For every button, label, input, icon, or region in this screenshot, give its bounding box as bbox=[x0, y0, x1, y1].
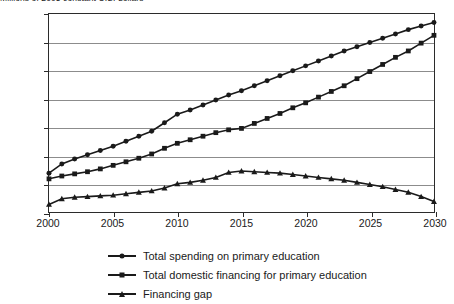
data-point bbox=[149, 152, 154, 157]
chart-legend: Total spending on primary educationTotal… bbox=[108, 246, 454, 303]
data-point bbox=[188, 107, 193, 112]
series-circle bbox=[47, 20, 437, 176]
data-point bbox=[149, 129, 154, 134]
data-point bbox=[316, 58, 321, 63]
data-point bbox=[431, 20, 436, 25]
data-point bbox=[111, 163, 116, 168]
data-point bbox=[329, 89, 334, 94]
data-point bbox=[393, 31, 398, 36]
legend-marker-circle-icon bbox=[108, 250, 136, 262]
data-point bbox=[72, 156, 77, 161]
legend-marker-square-icon bbox=[108, 269, 136, 281]
data-point bbox=[265, 78, 270, 83]
series-line bbox=[49, 171, 434, 204]
data-point bbox=[278, 111, 283, 116]
data-point bbox=[239, 88, 244, 93]
x-axis-tick-label: 2010 bbox=[165, 217, 188, 229]
data-point bbox=[290, 105, 295, 110]
data-point bbox=[367, 40, 372, 45]
data-point bbox=[355, 76, 360, 81]
data-point bbox=[175, 112, 180, 117]
data-point bbox=[85, 169, 90, 174]
data-point bbox=[59, 174, 64, 179]
data-point bbox=[162, 146, 167, 151]
data-lines bbox=[49, 14, 434, 213]
legend-label: Total spending on primary education bbox=[143, 250, 320, 262]
data-point bbox=[354, 44, 359, 49]
data-point bbox=[98, 148, 103, 153]
data-point bbox=[47, 171, 52, 176]
data-point bbox=[380, 62, 385, 67]
series-line bbox=[49, 23, 434, 174]
x-axis-tick-label: 2005 bbox=[101, 217, 124, 229]
data-point bbox=[265, 116, 270, 121]
data-point bbox=[201, 134, 206, 139]
series-square bbox=[47, 33, 437, 181]
data-point bbox=[316, 95, 321, 100]
data-point bbox=[213, 97, 218, 102]
data-point bbox=[419, 41, 424, 46]
data-point bbox=[252, 83, 257, 88]
data-point bbox=[175, 141, 180, 146]
data-point bbox=[432, 33, 437, 38]
x-axis-tick-label: 2020 bbox=[294, 217, 317, 229]
chart-figure: Millions of 2005 constant U.S. dollars 0… bbox=[0, 0, 454, 304]
data-point bbox=[85, 152, 90, 157]
axis-title: Millions of 2005 constant U.S. dollars bbox=[0, 0, 144, 3]
data-point bbox=[111, 144, 116, 149]
data-point bbox=[226, 127, 231, 132]
data-point bbox=[329, 53, 334, 58]
x-axis-tick-label: 2015 bbox=[230, 217, 253, 229]
series-line bbox=[49, 35, 434, 179]
data-point bbox=[252, 121, 257, 126]
series-triangle bbox=[46, 168, 437, 207]
data-point bbox=[162, 120, 167, 125]
legend-item[interactable]: Total domestic financing for primary edu… bbox=[108, 265, 454, 284]
x-axis-tick-label: 2000 bbox=[36, 217, 59, 229]
data-point bbox=[124, 139, 129, 144]
legend-label: Total domestic financing for primary edu… bbox=[143, 269, 367, 281]
data-point bbox=[136, 156, 141, 161]
data-point bbox=[393, 55, 398, 60]
data-point bbox=[188, 137, 193, 142]
legend-label: Financing gap bbox=[143, 288, 212, 300]
data-point bbox=[290, 68, 295, 73]
data-point bbox=[201, 102, 206, 107]
data-point bbox=[303, 63, 308, 68]
plot-area bbox=[48, 13, 435, 213]
data-point bbox=[59, 161, 64, 166]
data-point bbox=[406, 49, 411, 54]
data-point bbox=[303, 100, 308, 105]
data-point bbox=[342, 83, 347, 88]
x-axis-tick-label: 2030 bbox=[423, 217, 446, 229]
data-point bbox=[213, 130, 218, 135]
legend-marker-triangle-icon bbox=[108, 288, 136, 300]
data-point bbox=[98, 167, 103, 172]
data-point bbox=[47, 176, 52, 181]
data-point bbox=[124, 159, 129, 164]
data-point bbox=[239, 126, 244, 131]
x-axis-tick-mark bbox=[436, 212, 437, 217]
legend-item[interactable]: Total spending on primary education bbox=[108, 246, 454, 265]
data-point bbox=[406, 27, 411, 32]
data-point bbox=[136, 134, 141, 139]
data-point bbox=[277, 73, 282, 78]
data-point bbox=[380, 36, 385, 41]
data-point bbox=[72, 171, 77, 176]
data-point bbox=[367, 69, 372, 74]
legend-item[interactable]: Financing gap bbox=[108, 284, 454, 303]
x-axis-tick-label: 2025 bbox=[359, 217, 382, 229]
data-point bbox=[342, 48, 347, 53]
data-point bbox=[419, 24, 424, 29]
data-point bbox=[226, 93, 231, 98]
